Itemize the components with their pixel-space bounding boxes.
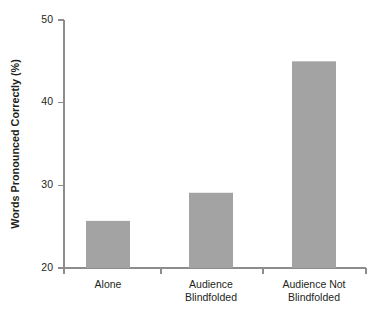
y-tick-label-50: 50 xyxy=(41,13,53,25)
x-tick-label-alone-line1: Alone xyxy=(95,278,122,290)
y-tick-label-30: 30 xyxy=(41,178,53,190)
x-tick-label-audience-not-blindfolded-line1: Audience Not xyxy=(282,278,345,290)
y-tick-label-20: 20 xyxy=(41,261,53,273)
y-tick-label-40: 40 xyxy=(41,95,53,107)
chart-canvas: Words Pronounced Correctly (%) 50 40 30 … xyxy=(0,0,380,318)
x-tick-label-audience-blindfolded-line2: Blindfolded xyxy=(185,291,237,303)
y-axis-label: Words Pronounced Correctly (%) xyxy=(9,59,21,229)
bar-alone xyxy=(86,221,130,268)
bar-chart-figure: Words Pronounced Correctly (%) 50 40 30 … xyxy=(0,0,380,318)
x-tick-label-audience-blindfolded-line1: Audience xyxy=(189,278,233,290)
x-tick-label-audience-not-blindfolded-line2: Blindfolded xyxy=(288,291,340,303)
bar-audience-blindfolded xyxy=(189,193,233,268)
bar-audience-not-blindfolded xyxy=(292,61,336,268)
